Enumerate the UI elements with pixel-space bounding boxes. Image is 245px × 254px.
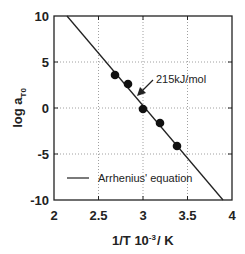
legend: Arrhenius' equation	[67, 172, 192, 184]
data-point	[139, 105, 148, 114]
annotation-label: 215kJ/mol	[156, 73, 206, 85]
y-tick-label: 0	[42, 101, 49, 116]
data-point	[124, 80, 133, 89]
x-tick-labels: 2 2.5 3 3.5 4	[50, 208, 236, 223]
x-tick-label: 3.5	[178, 208, 196, 223]
y-tick-label: -10	[30, 193, 49, 208]
y-tick-label: -5	[37, 147, 49, 162]
data-point	[156, 119, 165, 128]
data-point	[173, 142, 182, 151]
y-tick-label: 5	[42, 55, 49, 70]
y-tick-label: 10	[35, 9, 49, 24]
data-point	[111, 71, 120, 80]
x-tick-label: 3	[139, 208, 146, 223]
y-axis-label: log aT0	[10, 88, 28, 128]
x-tick-label: 4	[228, 208, 236, 223]
legend-label: Arrhenius' equation	[98, 172, 192, 184]
x-axis-label: 1/T 10-3/ K	[112, 233, 174, 248]
y-tick-labels: 10 5 0 -5 -10	[30, 9, 49, 208]
activation-energy-annotation: 215kJ/mol	[137, 73, 206, 96]
x-tick-label: 2	[50, 208, 57, 223]
arrhenius-chart: 215kJ/mol Arrhenius' equation 10 5 0 -5 …	[0, 0, 245, 254]
x-tick-label: 2.5	[89, 208, 107, 223]
